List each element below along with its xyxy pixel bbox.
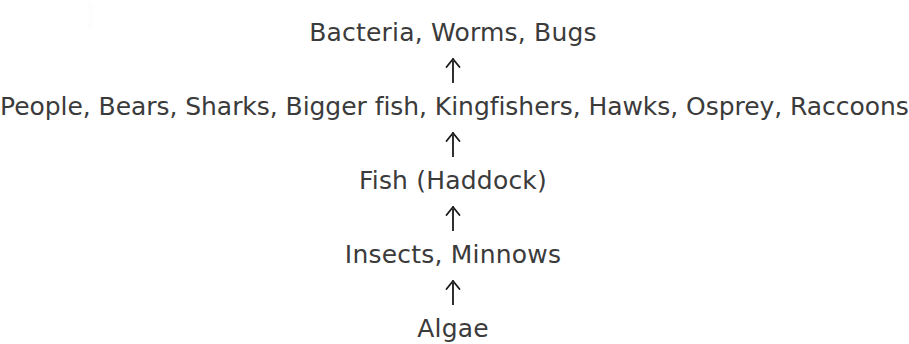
arrow-row-2 bbox=[0, 205, 906, 232]
up-arrow-icon bbox=[444, 131, 462, 158]
arrow-row-4 bbox=[0, 57, 906, 84]
up-arrow-icon bbox=[444, 205, 462, 232]
food-chain-level-1: Algae bbox=[0, 314, 906, 344]
food-chain-level-2: Insects, Minnows bbox=[0, 240, 906, 270]
food-chain-level-5: Bacteria, Worms, Bugs bbox=[0, 18, 906, 48]
arrow-row-3 bbox=[0, 131, 906, 158]
food-chain-level-4: People, Bears, Sharks, Bigger fish, King… bbox=[0, 92, 906, 122]
up-arrow-icon bbox=[444, 279, 462, 306]
up-arrow-icon bbox=[444, 57, 462, 84]
food-chain-level-3: Fish (Haddock) bbox=[0, 166, 906, 196]
arrow-row-1 bbox=[0, 279, 906, 306]
